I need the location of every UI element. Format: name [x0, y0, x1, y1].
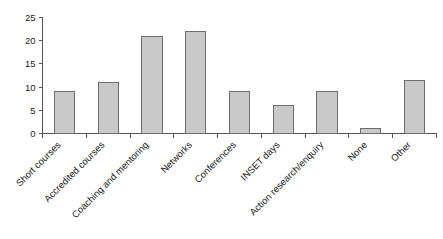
category-labels: Short coursesAccredited coursesCoaching … [14, 139, 413, 220]
y-axis-tick-label: 10 [25, 82, 36, 93]
y-axis-tick-label: 15 [25, 58, 36, 69]
x-axis-category-label: Other [388, 139, 413, 164]
bar [142, 36, 162, 133]
bar [186, 31, 206, 133]
chart-canvas: 0510152025 Short coursesAccredited cours… [0, 0, 443, 239]
x-axis-category-label: Networks [158, 139, 194, 175]
y-axis-tick-label: 5 [30, 105, 35, 116]
y-axis-tick-label: 20 [25, 35, 36, 46]
bar [98, 82, 118, 133]
bar-chart-figure: 0510152025 Short coursesAccredited cours… [0, 0, 443, 239]
bar [54, 92, 74, 134]
x-axis [43, 134, 437, 138]
x-axis-category-label: Short courses [14, 139, 63, 188]
x-axis-category-label: Action research/enquiry [247, 139, 326, 218]
y-axis-tick-label: 25 [25, 12, 36, 23]
bar [317, 92, 337, 134]
bar [405, 80, 425, 133]
x-axis-category-label: INSET days [238, 139, 282, 183]
y-axis-tick-label: 0 [30, 128, 35, 139]
x-axis-category-label: Conferences [192, 139, 238, 185]
y-axis: 0510152025 [25, 12, 43, 139]
bar [361, 129, 381, 134]
bars-series [54, 31, 424, 133]
x-axis-ticks [43, 134, 437, 138]
x-axis-category-label: Coaching and mentoring [69, 139, 150, 220]
x-axis-category-label: None [345, 139, 369, 163]
y-axis-ticks: 0510152025 [25, 12, 43, 139]
bar [229, 92, 249, 134]
bar [273, 106, 293, 134]
